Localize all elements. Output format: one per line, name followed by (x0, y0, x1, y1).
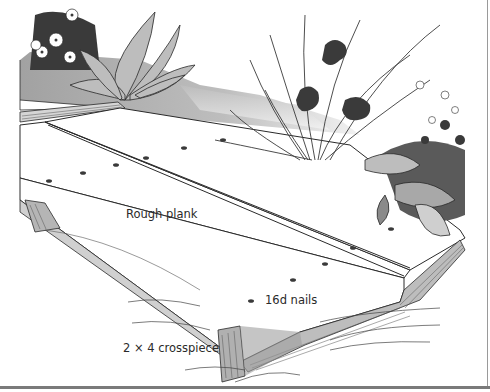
plank-walkway-illustration (0, 0, 490, 392)
frame-right-edge (487, 0, 488, 386)
label-crosspiece: 2 × 4 crosspiece (123, 341, 219, 355)
label-16d-nails: 16d nails (265, 293, 317, 307)
iris-flowers (296, 40, 370, 120)
crosspiece-front (218, 326, 302, 382)
frame-bottom-edge (0, 386, 490, 389)
hosta-plant (365, 81, 465, 236)
label-rough-plank: Rough plank (126, 207, 198, 221)
